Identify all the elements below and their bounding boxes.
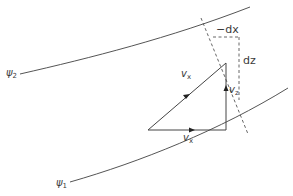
label-vx-horizontal: vx	[183, 133, 193, 143]
arrow-vertical-icon	[224, 85, 229, 91]
psi2-subscript: 2	[13, 72, 17, 80]
streamline-psi1	[70, 88, 288, 182]
psi1-symbol: ψ	[56, 177, 63, 188]
label-dz: dz	[243, 55, 256, 66]
vx-subscript: x	[187, 73, 191, 81]
arrow-hypotenuse-icon	[183, 94, 190, 99]
arrow-horizontal-icon	[189, 128, 195, 133]
label-psi1: ψ1	[56, 178, 67, 188]
label-minus-dx: −dx	[216, 24, 239, 35]
label-vx-hypotenuse: vx	[181, 69, 191, 79]
psi1-subscript: 1	[63, 182, 67, 190]
label-vz: vz	[229, 85, 239, 95]
label-psi2: ψ2	[6, 68, 17, 78]
streamline-psi2	[20, 7, 250, 74]
vz-subscript: z	[235, 89, 239, 97]
streamline-diagram	[0, 0, 293, 196]
psi2-symbol: ψ	[6, 67, 13, 78]
vx-subscript: x	[189, 137, 193, 145]
